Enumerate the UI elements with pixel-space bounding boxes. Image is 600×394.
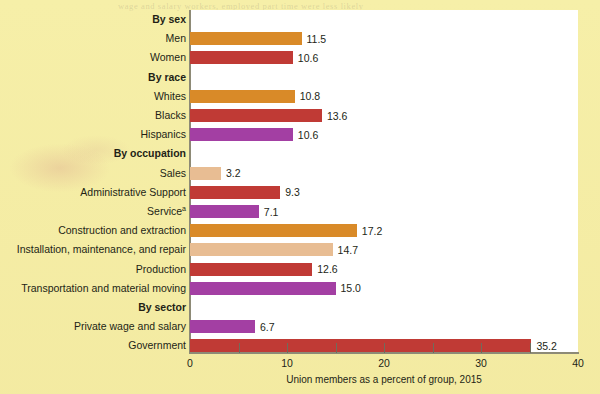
chart-bar-row: Sales3.2 — [0, 164, 600, 183]
bar-category-label: Whites — [154, 90, 186, 102]
chart-bar-row: Private wage and salary6.7 — [0, 317, 600, 336]
bar — [190, 128, 293, 141]
chart-group-heading-row: By occupation — [0, 144, 600, 163]
bar — [190, 167, 221, 180]
bar-value-label: 15.0 — [341, 282, 361, 295]
chart-bar-row: Servicea7.1 — [0, 202, 600, 221]
bar-category-label: Sales — [160, 167, 186, 179]
x-axis-title: Union members as a percent of group, 201… — [190, 374, 578, 385]
bar-value-label: 7.1 — [264, 206, 279, 219]
bar-value-label: 13.6 — [327, 110, 347, 123]
chart-bar-row: Whites10.8 — [0, 87, 600, 106]
group-heading-label: By occupation — [114, 147, 186, 159]
x-axis-major-tick — [481, 343, 482, 353]
bar — [190, 263, 312, 276]
chart-bar-row: Production12.6 — [0, 260, 600, 279]
x-axis-minor-tick — [239, 343, 240, 353]
footnote-marker: a — [182, 205, 186, 212]
bar-category-label: Administrative Support — [80, 186, 186, 198]
bar — [190, 109, 322, 122]
chart-bar-row: Installation, maintenance, and repair14.… — [0, 240, 600, 259]
x-axis-minor-tick — [530, 343, 531, 353]
x-axis-minor-tick — [336, 343, 337, 353]
bar-value-label: 12.6 — [317, 263, 337, 276]
chart-bar-row: Blacks13.6 — [0, 106, 600, 125]
bar-value-label: 14.7 — [338, 244, 358, 257]
bar-category-label: Transportation and material moving — [21, 282, 186, 294]
bar-category-label: Installation, maintenance, and repair — [17, 243, 186, 255]
x-axis-tick-label: 0 — [187, 357, 193, 369]
bar — [190, 282, 336, 295]
bar-category-label: Production — [136, 263, 186, 275]
bar-category-label: Servicea — [147, 205, 186, 217]
chart-bar-row: Construction and extraction17.2 — [0, 221, 600, 240]
bar — [190, 320, 255, 333]
bar-category-label: Blacks — [155, 109, 186, 121]
x-axis-major-tick — [384, 343, 385, 353]
bar-category-label: Women — [150, 51, 186, 63]
bar-value-label: 11.5 — [307, 33, 327, 46]
chart-bar-row: Government35.2 — [0, 336, 600, 355]
bar — [190, 51, 293, 64]
bar-category-label: Hispanics — [140, 128, 186, 140]
chart-bar-row: Hispanics10.6 — [0, 125, 600, 144]
chart-group-heading-row: By race — [0, 68, 600, 87]
bar — [190, 186, 280, 199]
union-membership-bar-chart: wage and salary workers, employed part t… — [0, 0, 600, 394]
bar-value-label: 9.3 — [285, 186, 300, 199]
x-axis-minor-tick — [433, 343, 434, 353]
bar-value-label: 10.8 — [300, 90, 320, 103]
bar-category-label: Government — [128, 339, 186, 351]
x-axis-tick-label: 40 — [572, 357, 584, 369]
chart-bar-row: Women10.6 — [0, 48, 600, 67]
chart-bar-row: Administrative Support9.3 — [0, 183, 600, 202]
bar-value-label: 10.6 — [298, 129, 318, 142]
bar-value-label: 17.2 — [362, 225, 382, 238]
group-heading-label: By sector — [138, 301, 186, 313]
chart-bar-row: Transportation and material moving15.0 — [0, 279, 600, 298]
bar — [190, 90, 295, 103]
bar-category-label: Construction and extraction — [58, 224, 186, 236]
x-axis-major-tick — [287, 343, 288, 353]
bar — [190, 243, 333, 256]
bar — [190, 32, 302, 45]
bar-value-label: 3.2 — [226, 167, 241, 180]
bar — [190, 205, 259, 218]
bar-category-label: Private wage and salary — [74, 320, 186, 332]
bar — [190, 224, 357, 237]
x-axis-tick-label: 30 — [475, 357, 487, 369]
bar-value-label: 6.7 — [260, 321, 275, 334]
chart-group-heading-row: By sector — [0, 298, 600, 317]
x-axis-tick-label: 10 — [281, 357, 293, 369]
chart-bar-row: Men11.5 — [0, 29, 600, 48]
bar-category-label: Men — [166, 32, 186, 44]
group-heading-label: By sex — [152, 13, 186, 25]
x-axis-tick-label: 20 — [378, 357, 390, 369]
group-heading-label: By race — [148, 71, 186, 83]
chart-group-heading-row: By sex — [0, 10, 600, 29]
bar-value-label: 35.2 — [536, 340, 556, 353]
bar-value-label: 10.6 — [298, 52, 318, 65]
